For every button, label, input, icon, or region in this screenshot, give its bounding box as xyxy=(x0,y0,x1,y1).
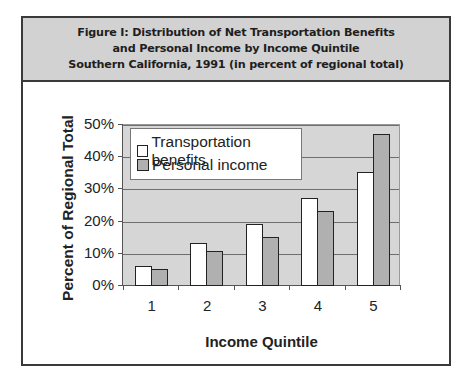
gridline xyxy=(123,125,399,126)
y-tick xyxy=(118,124,123,125)
legend-label-personal-income: Personal income xyxy=(152,156,267,174)
legend: Transportation benefits Personal income xyxy=(130,128,302,180)
bar-transportation-benefits xyxy=(357,172,374,286)
figure-title-line-1: Figure I: Distribution of Net Transporta… xyxy=(77,25,395,41)
legend-swatch-gray-icon xyxy=(137,159,149,171)
y-tick-label: 10% xyxy=(72,245,114,261)
y-tick-label: 50% xyxy=(72,116,114,132)
x-tick-label: 3 xyxy=(248,297,278,314)
bar-transportation-benefits xyxy=(301,198,318,286)
x-tick xyxy=(178,285,179,290)
x-tick xyxy=(400,285,401,290)
bar-personal-income xyxy=(373,134,390,286)
y-tick-label: 0% xyxy=(72,277,114,293)
y-tick xyxy=(118,188,123,189)
y-tick-label: 30% xyxy=(72,180,114,196)
bar-personal-income xyxy=(206,251,223,286)
y-tick-label: 20% xyxy=(72,213,114,229)
y-axis-title: Percent of Regional Total xyxy=(59,115,77,301)
y-axis xyxy=(122,124,123,286)
bar-transportation-benefits xyxy=(135,266,152,286)
legend-item-personal-income: Personal income xyxy=(137,156,267,174)
x-axis-title: Income Quintile xyxy=(123,333,400,350)
y-tick xyxy=(118,253,123,254)
y-tick xyxy=(118,156,123,157)
bar-transportation-benefits xyxy=(190,243,207,286)
x-tick xyxy=(123,285,124,290)
bar-transportation-benefits xyxy=(246,224,263,286)
x-tick xyxy=(234,285,235,290)
x-tick-label: 1 xyxy=(137,297,167,314)
x-tick xyxy=(345,285,346,290)
x-tick-label: 4 xyxy=(303,297,333,314)
x-tick xyxy=(289,285,290,290)
x-tick-label: 2 xyxy=(192,297,222,314)
y-tick-label: 40% xyxy=(72,148,114,164)
bar-personal-income xyxy=(317,211,334,286)
figure-title-line-2: and Personal Income by Income Quintile xyxy=(113,41,360,57)
figure-title-line-3: Southern California, 1991 (in percent of… xyxy=(68,57,403,73)
y-tick xyxy=(118,221,123,222)
figure-header: Figure I: Distribution of Net Transporta… xyxy=(23,18,449,82)
bar-personal-income xyxy=(262,237,279,286)
bar-personal-income xyxy=(151,269,168,286)
x-tick-label: 5 xyxy=(358,297,388,314)
